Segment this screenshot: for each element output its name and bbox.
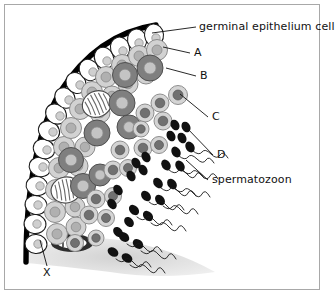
leader-spermatozoon bbox=[186, 160, 208, 180]
label-a: A bbox=[194, 47, 202, 58]
label-d: D bbox=[217, 149, 226, 160]
leader-b bbox=[166, 68, 196, 76]
label-c: C bbox=[212, 111, 220, 122]
label-b: B bbox=[200, 70, 208, 81]
leader-c bbox=[180, 94, 208, 117]
label-spermatozoon: spermatozoon bbox=[212, 174, 292, 185]
label-germinal-epithelium-cell: germinal epithelium cell bbox=[199, 21, 335, 32]
label-x: X bbox=[43, 267, 51, 278]
